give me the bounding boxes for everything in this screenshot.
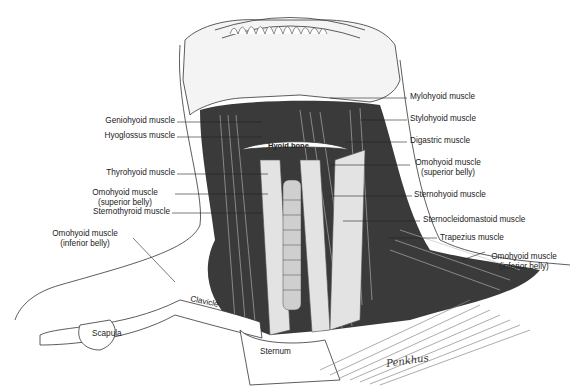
sternum-shape — [240, 330, 340, 385]
label-sternum: Sternum — [260, 347, 291, 357]
label-thyrohyoid: Thyrohyoid muscle — [60, 168, 175, 178]
label-sternohyoid: Sternohyoid muscle — [414, 190, 486, 200]
label-stylohyoid: Stylohyoid muscle — [410, 114, 476, 124]
label-hyoglossus: Hyoglossus muscle — [60, 131, 175, 141]
label-omohyoid-superior-left: Omohyoid muscle (superior belly) — [80, 188, 170, 208]
label-digastric: Digastric muscle — [410, 136, 470, 146]
anatomy-figure: Geniohyoid muscle Hyoglossus muscle Thyr… — [0, 0, 576, 387]
label-omohyoid-inferior-left: Omohyoid muscle (inferior belly) — [40, 229, 130, 249]
trachea — [283, 180, 301, 310]
label-mylohyoid: Mylohyoid muscle — [410, 92, 475, 102]
label-hyoid-bone: Hyoid bone — [268, 141, 309, 151]
label-sternothyroid: Sternothyroid muscle — [50, 207, 170, 217]
label-omohyoid-inferior-right: Omohyoid muscle (inferior belly) — [484, 252, 564, 272]
strap-muscles — [260, 150, 365, 335]
label-scapula: Scapula — [92, 329, 122, 339]
label-trapezius: Trapezius muscle — [440, 233, 504, 243]
label-geniohyoid: Geniohyoid muscle — [60, 116, 175, 126]
label-sternocleidomastoid: Sternocleidomastoid muscle — [423, 215, 525, 225]
label-omohyoid-superior-right: Omohyoid muscle (superior belly) — [408, 158, 488, 178]
